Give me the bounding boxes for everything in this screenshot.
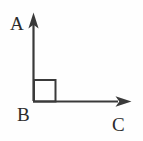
right-angle-marker-icon <box>34 80 56 102</box>
diagram-canvas: A B C <box>0 0 143 141</box>
right-angle-diagram: A B C <box>0 0 143 141</box>
label-b: B <box>17 104 30 125</box>
label-c: C <box>112 114 125 135</box>
label-a: A <box>10 13 24 34</box>
